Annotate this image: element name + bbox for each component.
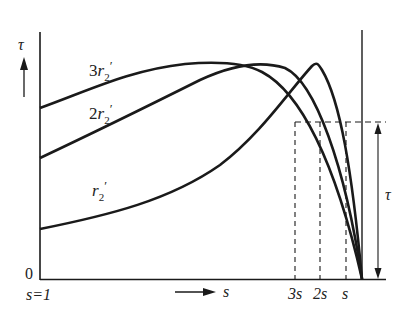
curve-2r2 xyxy=(40,64,362,279)
tau-dimension-arrow-icon xyxy=(375,123,382,279)
curve-r2 xyxy=(40,64,362,279)
tau-up-arrow-icon xyxy=(20,57,28,97)
curve-label-3r2: 3r2′ xyxy=(89,58,113,83)
origin-label: 0 xyxy=(25,265,33,282)
load-torque-label: τ xyxy=(385,186,392,203)
torque-slip-diagram: τ τ 3r2′ 2r2′ r2′ 0 s=1 s 3s 2s s xyxy=(0,0,412,316)
slip-label-3s: 3s xyxy=(287,285,302,302)
curve-label-2r2: 2r2′ xyxy=(89,101,113,126)
y-axis-symbol: τ xyxy=(18,36,25,53)
s-direction-arrow-icon xyxy=(175,288,216,296)
slip-label-2s: 2s xyxy=(313,285,327,302)
slip-label-s: s xyxy=(342,285,348,302)
x-start-label: s=1 xyxy=(26,286,51,303)
x-direction-label: s xyxy=(223,283,229,300)
curve-3r2 xyxy=(40,63,362,279)
curve-label-r2: r2′ xyxy=(92,178,107,203)
